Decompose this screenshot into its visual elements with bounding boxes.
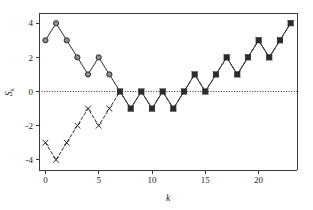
- chart-figure: 420-2-4 05101520 k Sk: [0, 0, 313, 210]
- y-tick-label-0: 4: [29, 18, 34, 28]
- marker-walk-upper-6: [107, 72, 112, 77]
- marker-walk-upper-4: [85, 72, 90, 77]
- marker-walk-upper-2: [64, 38, 69, 43]
- y-tick-label-2: 0: [29, 87, 34, 97]
- x-tick-label-3: 15: [201, 175, 211, 185]
- x-tick-label-2: 10: [148, 175, 158, 185]
- x-tick-label-0: 0: [43, 175, 48, 185]
- random-walk-chart: 420-2-4 05101520 k Sk: [0, 0, 313, 210]
- y-tick-label-3: -2: [26, 121, 34, 131]
- y-tick-label-1: 2: [29, 53, 34, 63]
- x-tick-label-1: 5: [96, 175, 101, 185]
- marker-walk-upper-0: [43, 38, 48, 43]
- x-tick-label-4: 20: [254, 175, 264, 185]
- marker-walk-upper-1: [53, 21, 58, 26]
- y-tick-label-4: -4: [26, 155, 34, 165]
- marker-walk-upper-3: [75, 55, 80, 60]
- marker-walk-upper-5: [96, 55, 101, 60]
